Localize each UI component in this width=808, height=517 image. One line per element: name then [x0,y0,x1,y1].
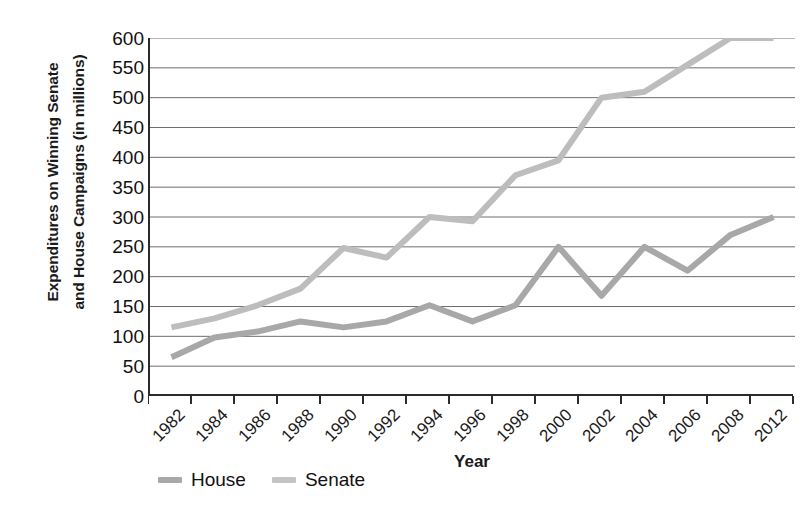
legend-swatch-senate [272,477,296,483]
y-tick-label: 0 [72,387,144,406]
y-tick-label: 400 [72,148,144,167]
x-tick-label: 2012 [742,406,789,453]
x-tick-label: 2008 [699,406,746,453]
legend-swatch-house [158,477,182,483]
y-tick-label: 100 [72,327,144,346]
plot-area [148,38,793,396]
y-tick-label: 600 [72,29,144,48]
y-tick-label: 50 [72,357,144,376]
y-tick-label: 500 [72,88,144,107]
x-tick-label: 1990 [312,406,359,453]
chart-legend: HouseSenate [148,470,796,489]
x-tick-label: 1982 [140,406,187,453]
y-axis-title: Expenditures on Winning Senate and House… [14,18,70,398]
y-tick-label: 300 [72,208,144,227]
y-axis-title-line-1: Expenditures on Winning Senate [40,0,66,372]
x-tick-label: 1988 [269,406,316,453]
x-tick-label: 1992 [355,406,402,453]
y-tick-label: 550 [72,58,144,77]
y-tick-label: 200 [72,267,144,286]
series-line-senate [172,38,774,327]
legend-item-house[interactable]: House [158,470,246,489]
legend-label: House [191,470,246,489]
legend-label: Senate [305,470,365,489]
x-tick-label: 1984 [183,406,230,453]
x-tick-label: 2000 [527,406,574,453]
x-tick-label: 2002 [570,406,617,453]
x-axis-ticks [148,396,797,406]
x-tick-label: 1996 [441,406,488,453]
y-tick-label: 150 [72,297,144,316]
chart-figure: Expenditures on Winning Senate and House… [0,0,808,517]
x-tick-label: 1994 [398,406,445,453]
legend-item-senate[interactable]: Senate [272,470,365,489]
y-tick-label: 350 [72,178,144,197]
y-tick-label: 450 [72,118,144,137]
x-tick-label: 2004 [613,406,660,453]
y-tick-label: 250 [72,237,144,256]
plot-svg [150,38,795,396]
x-tick-label: 1998 [484,406,531,453]
x-tick-label: 1986 [226,406,273,453]
y-axis-tick-labels: 600550500450400350300250200150100500 [72,0,144,517]
x-tick-label: 2006 [656,406,703,453]
